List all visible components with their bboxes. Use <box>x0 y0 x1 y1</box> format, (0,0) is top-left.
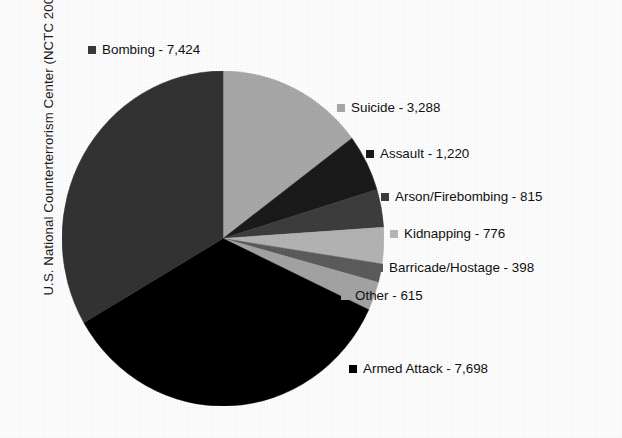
callout-label-arson-firebombing: Arson/Firebombing - 815 <box>395 189 542 204</box>
callout-label-suicide: Suicide - 3,288 <box>351 100 440 115</box>
swatch-other <box>341 292 349 300</box>
callout-label-armed-attack: Armed Attack - 7,698 <box>363 361 488 376</box>
page-edge-bleed-text <box>538 252 622 268</box>
callout-assault: Assault - 1,220 <box>366 146 469 161</box>
callout-armed-attack: Armed Attack - 7,698 <box>349 361 488 376</box>
swatch-assault <box>366 150 374 158</box>
callout-label-other: Other - 615 <box>355 288 423 303</box>
callout-label-assault: Assault - 1,220 <box>380 146 469 161</box>
swatch-arson-firebombing <box>381 193 389 201</box>
callout-bombing: Bombing - 7,424 <box>88 42 200 57</box>
callout-label-bombing: Bombing - 7,424 <box>102 42 200 57</box>
pie-slice-group <box>62 71 384 406</box>
swatch-suicide <box>337 104 345 112</box>
swatch-bombing <box>88 46 96 54</box>
callout-arson-firebombing: Arson/Firebombing - 815 <box>381 189 542 204</box>
pie-graphic <box>62 71 384 406</box>
swatch-kidnapping <box>390 230 398 238</box>
callout-kidnapping: Kidnapping - 776 <box>390 226 505 241</box>
callout-suicide: Suicide - 3,288 <box>337 100 440 115</box>
callout-barricade-hostage: Barricade/Hostage - 398 <box>375 260 534 275</box>
pie-svg <box>62 71 384 406</box>
pie-chart-figure: U.S. National Counterterrorism Center (N… <box>0 0 622 438</box>
callout-label-kidnapping: Kidnapping - 776 <box>404 226 505 241</box>
callout-label-barricade-hostage: Barricade/Hostage - 398 <box>389 260 534 275</box>
swatch-armed-attack <box>349 365 357 373</box>
source-credit-vertical: U.S. National Counterterrorism Center (N… <box>41 16 56 296</box>
swatch-barricade-hostage <box>375 264 383 272</box>
callout-other: Other - 615 <box>341 288 423 303</box>
